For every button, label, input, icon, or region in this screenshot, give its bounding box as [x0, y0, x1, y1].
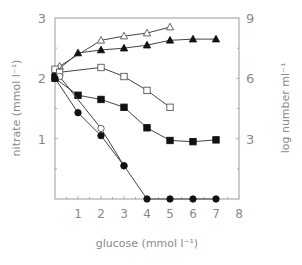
square-marker	[98, 96, 104, 102]
square-marker	[190, 138, 196, 144]
x-tick-label: 8	[235, 207, 243, 221]
square-marker	[167, 104, 173, 110]
series-line	[60, 27, 170, 66]
y-axis-right-label: log number ml⁻¹	[279, 63, 292, 154]
y-tick-label-right: 6	[246, 71, 254, 86]
y-tick-label-left: 2	[38, 71, 46, 86]
circle-marker	[167, 196, 173, 202]
y-tick-label-right: 9	[246, 11, 254, 26]
y-tick-label-right: 3	[246, 132, 254, 147]
square-marker	[144, 87, 150, 93]
circle-marker	[190, 196, 196, 202]
y-tick-label-left: 3	[38, 11, 46, 26]
series-line	[55, 67, 170, 107]
series-triangle-filled	[51, 35, 219, 75]
x-tick-label: 5	[166, 207, 174, 221]
circle-marker	[75, 110, 81, 116]
x-tick-label: 6	[189, 207, 197, 221]
series-layer	[51, 23, 219, 202]
x-tick-label: 3	[120, 207, 128, 221]
triangle-marker	[166, 23, 173, 30]
x-tick-label: 7	[212, 207, 220, 221]
circle-marker	[98, 125, 104, 131]
square-marker	[213, 137, 219, 143]
x-tick-label: 2	[97, 207, 105, 221]
circle-marker	[121, 163, 127, 169]
circle-marker	[144, 196, 150, 202]
circle-marker	[52, 75, 58, 81]
y-axis-left-label: nitrate (mmol l⁻¹)	[10, 60, 23, 157]
x-axis-label: glucose (mmol l⁻¹)	[96, 237, 198, 250]
x-tick-label: 4	[143, 207, 151, 221]
y-tick-label-left: 1	[38, 132, 46, 147]
x-tick-label: 1	[74, 207, 82, 221]
square-marker	[98, 64, 104, 70]
square-marker	[144, 125, 150, 131]
square-marker	[167, 137, 173, 143]
nitrate-glucose-chart: 12345678123369 glucose (mmol l⁻¹) nitrat…	[0, 0, 302, 265]
square-marker	[121, 73, 127, 79]
circle-marker	[213, 196, 219, 202]
series-triangle-open	[56, 23, 174, 69]
circle-marker	[98, 132, 104, 138]
square-marker	[121, 104, 127, 110]
